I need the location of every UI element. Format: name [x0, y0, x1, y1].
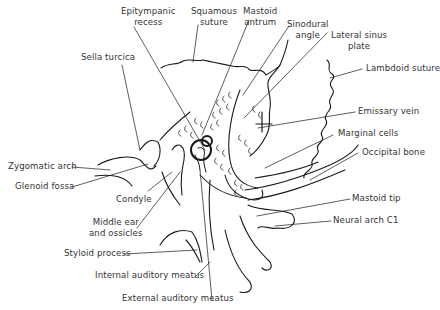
- label-condyle: Condyle: [116, 194, 152, 205]
- label-styloid-process: Styloid process: [64, 248, 131, 259]
- label-lateral-sinus-plate: Lateral sinus plate: [331, 30, 387, 52]
- label-zygomatic-arch: Zygomatic arch: [8, 161, 77, 172]
- label-internal-auditory-meatus: Internal auditory meatus: [95, 270, 204, 281]
- label-sella-turcica: Sella turcica: [81, 52, 135, 63]
- label-occipital-bone: Occipital bone: [362, 147, 425, 158]
- label-sinodural-angle: Sinodural angle: [287, 19, 329, 41]
- outlines: [95, 40, 358, 293]
- label-neural-arch-c1: Neural arch C1: [333, 215, 398, 226]
- label-mastoid-antrum: Mastoid antrum: [243, 6, 277, 28]
- air-cells: [179, 92, 261, 196]
- label-lambdoid-suture: Lambdoid suture: [366, 63, 440, 74]
- label-external-auditory-meatus: External auditory meatus: [122, 293, 234, 304]
- label-marginal-cells: Marginal cells: [338, 128, 398, 139]
- label-squamous-suture: Squamous suture: [191, 6, 237, 28]
- label-emissary-vein: Emissary vein: [358, 106, 419, 117]
- label-mastoid-tip: Mastoid tip: [352, 193, 401, 204]
- label-epitympanic-recess: Epitympanic recess: [121, 6, 175, 28]
- label-middle-ear-ossicles: Middle ear and ossicles: [89, 217, 143, 239]
- label-glenoid-fossa: Glenoid fossa: [15, 181, 74, 192]
